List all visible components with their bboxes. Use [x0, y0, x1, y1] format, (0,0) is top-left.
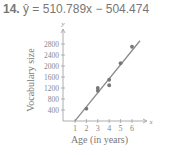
chart-axes: yx	[60, 20, 153, 126]
x-axis-label: Age (in years)	[0, 134, 169, 145]
data-point	[96, 89, 100, 93]
y-tick-label: 1600	[44, 73, 59, 82]
chart-ticks: 40080012001600200024002800123456	[44, 40, 134, 134]
data-point	[119, 61, 123, 65]
x-tick-label: 1	[73, 124, 77, 133]
data-point	[107, 78, 111, 82]
x-tick-label: 3	[96, 124, 100, 133]
x-tick-label: 2	[84, 124, 88, 133]
y-axis-label: Vocabulary size	[25, 48, 36, 112]
x-tick-label: 5	[119, 124, 123, 133]
y-tick-label: 400	[48, 106, 60, 115]
scatter-chart: yx 40080012001600200024002800123456 Voca…	[0, 0, 169, 155]
y-tick-label: 2400	[44, 51, 59, 60]
data-point	[130, 45, 134, 49]
y-tick-label: 2000	[44, 62, 59, 71]
x-tick-label: 6	[130, 124, 134, 133]
y-tick-label: 1200	[44, 84, 59, 93]
data-point	[85, 107, 89, 111]
y-axis-symbol: y	[60, 20, 65, 28]
y-tick-label: 800	[48, 95, 60, 104]
data-point	[107, 83, 111, 87]
x-tick-label: 4	[107, 124, 111, 133]
x-axis-symbol: x	[148, 118, 153, 126]
y-tick-label: 2800	[44, 40, 59, 49]
